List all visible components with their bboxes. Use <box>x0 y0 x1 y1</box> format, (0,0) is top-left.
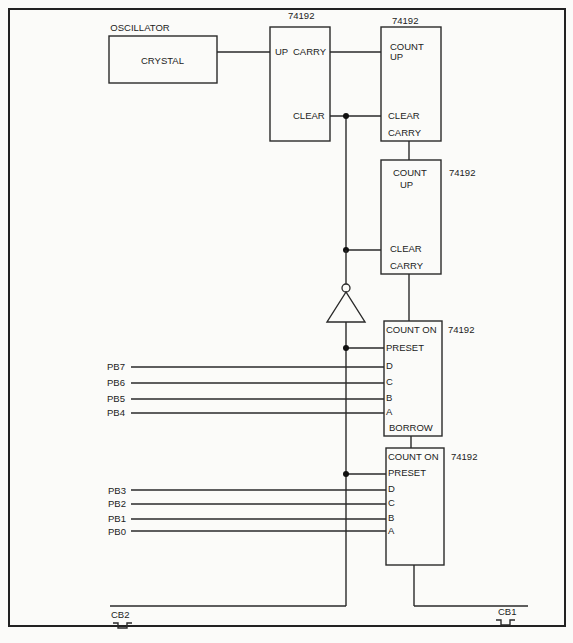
u5-part: 74192 <box>451 451 477 462</box>
u5-pin-a: A <box>388 525 395 536</box>
input-pb1: PB1 <box>108 513 126 524</box>
u2-pin-carry: CARRY <box>388 127 422 138</box>
u4-pin-count-on: COUNT ON <box>386 324 437 335</box>
u3-pin-carry: CARRY <box>390 260 424 271</box>
u5-pin-d: D <box>388 483 395 494</box>
u4-pin-d: D <box>386 360 393 371</box>
u1-part: 74192 <box>288 10 314 21</box>
u4-pin-preset: PRESET <box>386 342 424 353</box>
u1-pin-carry: CARRY <box>293 46 327 57</box>
counter-schematic: OSCILLATOR CRYSTAL 74192 UP CARRY CLEAR … <box>0 0 573 643</box>
u4-part: 74192 <box>448 324 474 335</box>
u1-pin-up: UP <box>275 46 288 57</box>
signal-cb1: CB1 <box>498 606 516 617</box>
u5-pin-c: C <box>388 497 395 508</box>
signal-cb2: CB2 <box>111 609 129 620</box>
oscillator-label: CRYSTAL <box>141 55 184 66</box>
u4-pin-a: A <box>386 406 393 417</box>
u3-part: 74192 <box>449 167 475 178</box>
input-pb6: PB6 <box>107 377 125 388</box>
chip-u1 <box>270 27 330 141</box>
u2-part: 74192 <box>392 15 418 26</box>
u3-pin-up: UP <box>400 179 413 190</box>
input-pb3: PB3 <box>108 485 126 496</box>
u5-pin-count-on: COUNT ON <box>388 451 439 462</box>
input-pb5: PB5 <box>107 393 125 404</box>
oscillator-title: OSCILLATOR <box>110 22 169 33</box>
u4-pin-borrow: BORROW <box>389 422 433 433</box>
input-pb0: PB0 <box>108 526 126 537</box>
u3-pin-clear: CLEAR <box>390 243 422 254</box>
input-pb7: PB7 <box>107 361 125 372</box>
u4-pin-c: C <box>386 376 393 387</box>
u3-pin-count: COUNT <box>393 167 427 178</box>
pulse-low-icon <box>496 620 515 625</box>
u5-pin-b: B <box>388 512 394 523</box>
input-pb4: PB4 <box>107 407 125 418</box>
u2-pin-clear: CLEAR <box>388 110 420 121</box>
u4-pin-b: B <box>386 392 392 403</box>
input-pb2: PB2 <box>108 498 126 509</box>
u2-pin-up: UP <box>390 51 403 62</box>
u1-pin-clear: CLEAR <box>293 110 325 121</box>
inverter-gate <box>327 284 365 322</box>
u5-pin-preset: PRESET <box>388 467 426 478</box>
